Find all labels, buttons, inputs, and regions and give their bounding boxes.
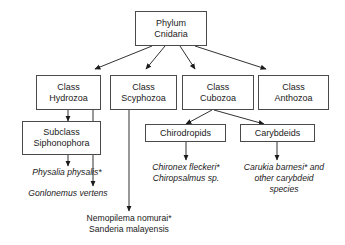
edge-cubozoa-carybdeids [214,110,264,124]
node-label-line: Class [282,82,305,93]
leaf-text-line: Chironex fleckeri* [133,162,239,173]
edge-cubozoa-chirodropids [186,110,212,124]
node-label-line: Class [207,82,230,93]
leaf-text-line: Chiropsalmus sp. [133,173,239,184]
node-subclass-siphonophora[interactable]: Subclass Siphonophora [22,121,101,155]
node-label-line: Cnidaria [154,29,188,40]
node-label-line: Cubozoa [200,93,236,104]
leaf-text-line: Carukia barnesi* and [229,162,339,173]
node-carybdeids[interactable]: Carybdeids [240,124,315,142]
node-label-line: Siphonophora [33,138,89,149]
taxonomy-diagram: Phylum Cnidaria Class Hydrozoa Class Scy… [0,0,345,245]
leaf-chironex-chiropsalmus: Chironex fleckeri* Chiropsalmus sp. [133,162,239,184]
leaf-gonlonemus-vertens: Gonlonemus vertens [8,188,128,199]
edge-phylum-hydrozoa [95,46,152,69]
leaf-text-line: Nemopilema nomurai* [67,213,191,224]
node-label-line: Scyphozoa [121,93,166,104]
node-label-line: Carybdeids [255,128,301,139]
leaf-physalia-physalis: Physalia physalis* [8,167,126,178]
node-label-line: Phylum [156,18,186,29]
leaf-text-line: species [229,184,339,195]
edge-phylum-anthozoa [195,46,266,69]
leaf-carukia-barnesi: Carukia barnesi* and other carybdeid spe… [229,162,339,195]
node-class-anthozoa[interactable]: Class Anthozoa [258,75,329,110]
edge-phylum-cubozoa [180,46,195,69]
node-chirodropids[interactable]: Chirodropids [145,124,226,142]
node-class-scyphozoa[interactable]: Class Scyphozoa [110,75,177,110]
node-class-cubozoa[interactable]: Class Cubozoa [182,75,254,110]
node-label-line: Class [57,82,80,93]
leaf-nemopilema-sanderia: Nemopilema nomurai* Sanderia malayensis [67,213,191,235]
node-phylum-cnidaria[interactable]: Phylum Cnidaria [135,11,207,46]
node-label-line: Subclass [43,127,80,138]
leaf-text-line: other carybdeid [229,173,339,184]
leaf-text-line: Gonlonemus vertens [8,188,128,199]
edge-phylum-scyphozoa [146,46,165,69]
node-label-line: Class [132,82,155,93]
leaf-text-line: Physalia physalis* [8,167,126,178]
leaf-text-line: Sanderia malayensis [67,224,191,235]
node-class-hydrozoa[interactable]: Class Hydrozoa [36,75,101,110]
node-label-line: Chirodropids [160,128,211,139]
node-label-line: Anthozoa [274,93,312,104]
node-label-line: Hydrozoa [49,93,88,104]
